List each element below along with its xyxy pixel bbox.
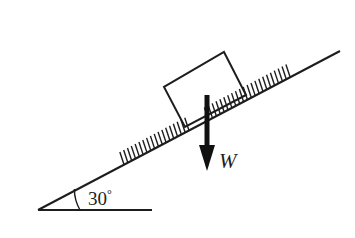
hatch-tick	[255, 81, 259, 94]
hatch-tick	[212, 103, 216, 116]
hatch-tick	[216, 101, 220, 114]
hatch-tick	[177, 122, 181, 135]
hatch-tick	[147, 138, 151, 151]
hatch-tick	[263, 77, 267, 90]
hatch-tick	[120, 152, 124, 165]
hatch-tick	[228, 95, 232, 108]
hatch-tick	[154, 134, 158, 147]
angle-value: 30	[88, 188, 107, 209]
hatch-tick	[232, 93, 236, 106]
hatch-tick	[143, 140, 147, 153]
hatch-tick	[166, 128, 170, 141]
angle-label: 30°	[88, 187, 112, 209]
hatch-tick	[170, 126, 174, 139]
hatch-tick	[278, 69, 282, 82]
hatch-tick	[235, 91, 239, 104]
hatch-tick	[162, 130, 166, 143]
hatch-tick	[267, 75, 271, 88]
hatch-tick	[131, 146, 135, 159]
angle-arc	[74, 189, 80, 210]
hatch-tick	[173, 124, 177, 137]
hatch-tick	[282, 67, 286, 80]
hatch-tick	[124, 150, 128, 163]
hatch-tick	[220, 99, 224, 112]
hatch-tick	[274, 71, 278, 84]
hatch-tick	[270, 73, 274, 86]
weight-vector-label: W	[219, 149, 239, 173]
hatch-tick	[158, 132, 162, 145]
degree-symbol-icon: °	[107, 187, 112, 201]
inclined-plane-diagram: 30° W	[0, 0, 355, 238]
hatch-tick	[135, 144, 139, 157]
hatch-tick	[259, 79, 263, 92]
hatch-tick	[251, 83, 255, 96]
hatch-tick	[286, 65, 290, 78]
hatch-tick	[224, 97, 228, 110]
hatch-tick	[247, 85, 251, 98]
diagram-canvas: 30° W	[0, 0, 355, 238]
hatch-tick	[150, 136, 154, 149]
hatch-tick	[127, 148, 131, 161]
weight-arrowhead-icon	[199, 145, 215, 171]
hatch-tick	[139, 142, 143, 155]
